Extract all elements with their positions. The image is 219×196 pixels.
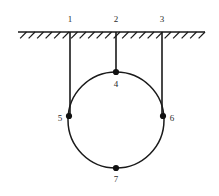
hatch-mark: [139, 32, 145, 38]
node-4-top: [113, 69, 119, 75]
ceiling-group: [18, 32, 205, 38]
hatch-mark: [165, 32, 171, 38]
hatch-mark: [148, 32, 154, 38]
hatch-mark: [199, 32, 205, 38]
hatch-mark: [63, 32, 69, 38]
ceiling-hatch-marks: [20, 32, 205, 38]
node-7-bottom: [113, 165, 119, 171]
hatch-mark: [46, 32, 52, 38]
label-anchor-2: 2: [114, 14, 119, 24]
node-6-right: [160, 113, 166, 119]
hatch-mark: [182, 32, 188, 38]
label-node-4: 4: [114, 79, 119, 89]
diagram-canvas: 1 2 3 4 5 6 7: [0, 0, 219, 196]
label-node-5: 5: [58, 113, 63, 123]
label-anchor-1: 1: [68, 14, 73, 24]
label-node-6: 6: [170, 113, 175, 123]
hatch-mark: [80, 32, 86, 38]
hatch-mark: [122, 32, 128, 38]
node-5-left: [66, 113, 72, 119]
hatch-mark: [88, 32, 94, 38]
hatch-mark: [37, 32, 43, 38]
hatch-mark: [173, 32, 179, 38]
hatch-mark: [190, 32, 196, 38]
label-node-7: 7: [114, 174, 119, 184]
hatch-mark: [20, 32, 26, 38]
ring-suspension-diagram: 1 2 3 4 5 6 7: [0, 0, 219, 196]
hatch-mark: [131, 32, 137, 38]
hatch-mark: [54, 32, 60, 38]
label-anchor-3: 3: [160, 14, 165, 24]
hatch-mark: [105, 32, 111, 38]
hatch-mark: [71, 32, 77, 38]
hatch-mark: [114, 32, 120, 38]
hatch-mark: [29, 32, 35, 38]
hatch-mark: [97, 32, 103, 38]
